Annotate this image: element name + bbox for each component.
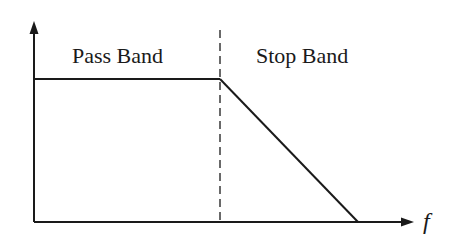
stop-band-label: Stop Band (256, 43, 348, 68)
x-axis-arrow-icon (401, 218, 414, 227)
pass-band-label: Pass Band (72, 43, 163, 68)
y-axis (30, 21, 39, 222)
rolloff-response-line (220, 79, 358, 222)
frequency-axis-label: f (423, 208, 433, 234)
y-axis-arrow-icon (30, 21, 39, 34)
lowpass-filter-diagram: Pass Band Stop Band f (0, 0, 463, 250)
